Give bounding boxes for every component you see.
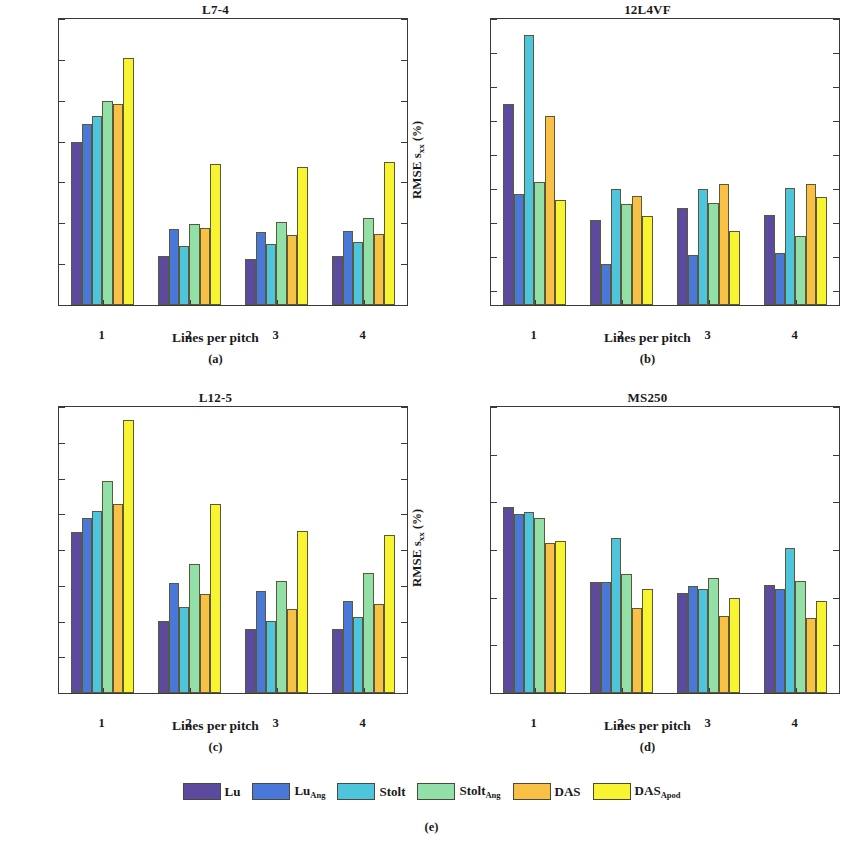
legend-item-lu-ang[interactable]: LuAng bbox=[252, 783, 325, 800]
y-tick-mark-right bbox=[401, 657, 407, 658]
y-tick-mark bbox=[59, 223, 65, 224]
y-tick-mark bbox=[491, 223, 497, 224]
y-tick-mark bbox=[59, 19, 65, 20]
bar-lu bbox=[677, 208, 687, 305]
legend-label: DASApod bbox=[635, 783, 681, 800]
x-tick-mark bbox=[622, 688, 623, 693]
bar-lu-ang bbox=[82, 124, 92, 305]
y-tick-mark-right bbox=[401, 407, 407, 408]
y-tick-mark-right bbox=[833, 87, 839, 88]
bar-stolt bbox=[179, 246, 189, 305]
bar-das bbox=[806, 184, 816, 305]
panel-c: L12-5 RMSE sxx (%) 0.40.50.60.70.80.911.… bbox=[0, 388, 431, 766]
bar-group bbox=[332, 407, 395, 693]
y-tick-mark bbox=[59, 657, 65, 658]
bar-das-apod bbox=[210, 164, 220, 305]
bar-stolt bbox=[785, 548, 795, 693]
y-tick-mark bbox=[491, 19, 497, 20]
bar-das bbox=[287, 235, 297, 305]
panel-a-title: L7-4 bbox=[0, 2, 431, 18]
bar-lu bbox=[158, 621, 168, 693]
bar-group bbox=[764, 407, 827, 693]
bar-das-apod bbox=[642, 589, 652, 693]
panel-a-axes: 0.40.50.60.70.80.911.1 bbox=[58, 18, 408, 306]
legend-label: StoltAng bbox=[459, 783, 500, 800]
bar-group bbox=[245, 407, 308, 693]
y-tick-mark bbox=[59, 305, 65, 306]
bar-stolt-ang bbox=[708, 578, 718, 693]
bar-stolt-ang bbox=[795, 581, 805, 693]
y-tick-mark bbox=[59, 622, 65, 623]
legend-item-lu[interactable]: Lu bbox=[183, 783, 241, 800]
bar-lu-ang bbox=[601, 582, 611, 693]
y-tick-mark-right bbox=[401, 182, 407, 183]
bar-stolt bbox=[266, 621, 276, 693]
bar-stolt-ang bbox=[276, 581, 286, 693]
bar-stolt-ang bbox=[189, 564, 199, 693]
bar-stolt-ang bbox=[102, 481, 112, 693]
bar-group bbox=[332, 19, 395, 305]
bar-das-apod bbox=[384, 162, 394, 305]
y-tick-mark-right bbox=[401, 264, 407, 265]
y-tick-mark-right bbox=[833, 455, 839, 456]
bar-stolt bbox=[785, 188, 795, 305]
legend-item-das[interactable]: DAS bbox=[513, 783, 581, 800]
bar-stolt-ang bbox=[795, 236, 805, 305]
bar-stolt-ang bbox=[189, 224, 199, 305]
panel-d: MS250 RMSE sxx (%) 0.30.350.40.450.50.55… bbox=[432, 388, 863, 766]
panel-a: L7-4 RMSE sxx (%) 0.40.50.60.70.80.911.1… bbox=[0, 0, 431, 378]
bar-stolt bbox=[698, 589, 708, 693]
panel-c-axes: 0.40.50.60.70.80.911.11.2 bbox=[58, 406, 408, 694]
legend-swatch-icon bbox=[183, 783, 221, 800]
bar-group bbox=[764, 19, 827, 305]
y-tick-mark-right bbox=[401, 443, 407, 444]
panel-b: 12L4VF RMSE sxx (%) 0.811.21.41.61.822.2… bbox=[432, 0, 863, 378]
y-tick-mark bbox=[491, 257, 497, 258]
bar-group bbox=[71, 407, 134, 693]
bar-das-apod bbox=[729, 598, 739, 693]
y-tick-mark-right bbox=[833, 223, 839, 224]
bar-lu bbox=[245, 259, 255, 305]
legend: LuLuAngStoltStoltAngDASDASApod bbox=[0, 783, 863, 800]
y-tick-mark bbox=[491, 502, 497, 503]
bar-das-apod bbox=[729, 231, 739, 305]
bar-lu bbox=[332, 256, 342, 305]
bar-das bbox=[113, 504, 123, 693]
bar-group bbox=[71, 19, 134, 305]
bar-stolt bbox=[611, 538, 621, 693]
legend-label: Stolt bbox=[379, 784, 405, 800]
y-tick-mark-right bbox=[833, 189, 839, 190]
bar-das bbox=[719, 184, 729, 305]
y-tick-mark-right bbox=[401, 142, 407, 143]
legend-item-das-apod[interactable]: DASApod bbox=[593, 783, 681, 800]
y-tick-mark-right bbox=[833, 550, 839, 551]
x-tick-mark bbox=[277, 688, 278, 693]
x-tick-mark bbox=[103, 300, 104, 305]
panel-b-xlabel: Lines per pitch bbox=[432, 330, 863, 346]
x-tick-mark bbox=[190, 688, 191, 693]
legend-label: LuAng bbox=[294, 783, 325, 800]
bar-das-apod bbox=[816, 601, 826, 693]
bar-lu-ang bbox=[169, 583, 179, 693]
x-tick-mark bbox=[796, 688, 797, 693]
y-tick-mark-right bbox=[401, 550, 407, 551]
bar-lu-ang bbox=[775, 589, 785, 693]
y-tick-mark bbox=[59, 264, 65, 265]
y-tick-mark-right bbox=[833, 693, 839, 694]
panel-b-plot-area: 0.811.21.41.61.822.22.4 1234 bbox=[490, 18, 840, 306]
legend-swatch-icon bbox=[252, 783, 290, 800]
bar-das bbox=[374, 604, 384, 693]
bar-stolt-ang bbox=[102, 101, 112, 305]
y-tick-mark-right bbox=[401, 305, 407, 306]
bar-stolt-ang bbox=[534, 518, 544, 693]
legend-item-stolt[interactable]: Stolt bbox=[337, 783, 405, 800]
bar-das bbox=[200, 594, 210, 693]
y-tick-mark-right bbox=[401, 479, 407, 480]
bar-group bbox=[503, 19, 566, 305]
x-tick-mark bbox=[796, 300, 797, 305]
y-tick-mark bbox=[491, 155, 497, 156]
y-tick-mark bbox=[491, 189, 497, 190]
bar-stolt-ang bbox=[621, 204, 631, 305]
bar-lu-ang bbox=[514, 514, 524, 693]
legend-item-stolt-ang[interactable]: StoltAng bbox=[417, 783, 500, 800]
